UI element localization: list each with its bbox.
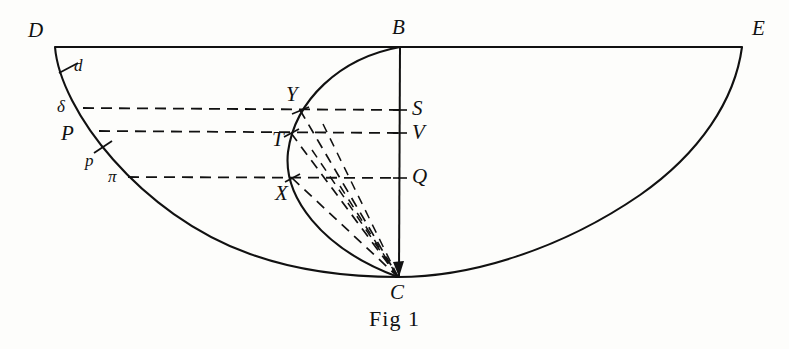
- point-label-Y: Y: [286, 84, 298, 105]
- point-label-p: p: [85, 152, 94, 169]
- tick-p-mark: [94, 141, 112, 153]
- axis-BC: [399, 47, 400, 277]
- ray-T-to-C: [291, 133, 398, 277]
- ray-S-to-C: [323, 124, 398, 277]
- point-label-C: C: [390, 282, 404, 303]
- chord-pi-X-Q: [128, 177, 400, 178]
- point-label-D: D: [28, 20, 43, 41]
- point-label-P: P: [61, 123, 74, 144]
- figure-container: D d δ P p π B Y T X S V Q C E Fig 1: [0, 0, 789, 349]
- chord-delta-Y-S: [83, 108, 400, 110]
- figure-caption: Fig 1: [0, 306, 789, 332]
- point-label-Q: Q: [412, 166, 427, 187]
- point-label-B: B: [392, 17, 405, 38]
- point-label-delta: δ: [57, 98, 65, 115]
- point-label-T: T: [272, 129, 284, 150]
- point-label-X: X: [275, 183, 288, 204]
- point-label-V: V: [412, 122, 425, 143]
- inner-arc-BC: [288, 47, 400, 277]
- point-label-pi: π: [108, 168, 117, 185]
- point-label-E: E: [752, 18, 765, 39]
- point-label-S: S: [412, 98, 423, 119]
- point-label-d: d: [74, 57, 83, 74]
- chord-P-T-V: [99, 131, 400, 133]
